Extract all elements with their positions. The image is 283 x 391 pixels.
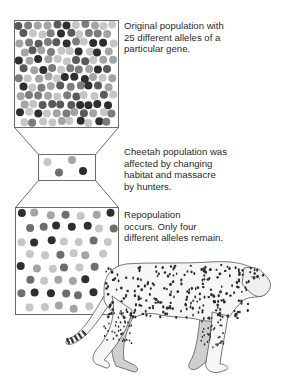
funnel-bottom	[16, 181, 119, 208]
funnel-top	[15, 128, 119, 155]
cheetah-illustration	[66, 262, 271, 373]
caption-bottleneck: Cheetah population was affected by chang…	[124, 146, 227, 192]
repopulated-population-alleles	[17, 208, 118, 312]
genetic-bottleneck-diagram	[0, 0, 283, 391]
original-population-alleles	[14, 20, 117, 127]
bottleneck-population-alleles	[44, 156, 88, 177]
caption-repopulation: Repopulation occurs. Only four different…	[124, 209, 223, 244]
caption-original-population: Original population with 25 different al…	[124, 20, 224, 55]
